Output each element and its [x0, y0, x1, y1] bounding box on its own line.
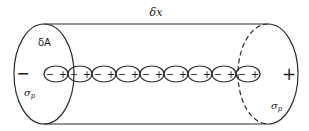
dipole-negative: − — [94, 69, 102, 80]
sigma-subscript: p — [278, 105, 283, 113]
dipole-positive: + — [179, 69, 187, 80]
dipole-negative: − — [190, 69, 198, 80]
right-surface-charge-label: σp — [271, 100, 283, 113]
dipole: − + — [236, 66, 260, 82]
dipole-negative: − — [46, 69, 54, 80]
dipole: − + — [140, 66, 164, 82]
dipole-negative: − — [142, 69, 150, 80]
dipole: − + — [44, 66, 68, 82]
dipole-positive: + — [203, 69, 211, 80]
dipole-negative: − — [214, 69, 222, 80]
dipole: − + — [188, 66, 212, 82]
left-surface-charge-label: σp — [24, 87, 36, 100]
dipole-chain: − + − + − + − + − + − + − — [44, 66, 260, 82]
dipole: − + — [92, 66, 116, 82]
polarized-cylinder-diagram: δx δA − σp + σp − + − + − + − + — [0, 0, 309, 131]
dipole-positive: + — [227, 69, 235, 80]
left-charge-sign: − — [16, 64, 29, 83]
dipole-positive: + — [59, 69, 67, 80]
sigma-subscript: p — [31, 92, 36, 100]
dipole-positive: + — [155, 69, 163, 80]
area-label: δA — [38, 37, 51, 48]
dipole-positive: + — [83, 69, 91, 80]
dipole-negative: − — [166, 69, 174, 80]
dipole-negative: − — [70, 69, 78, 80]
dipole-negative: − — [238, 69, 246, 80]
dipole: − + — [68, 66, 92, 82]
dipole-negative: − — [118, 69, 126, 80]
dipole-positive: + — [107, 69, 115, 80]
dipole: − + — [212, 66, 236, 82]
dipole-positive: + — [251, 69, 259, 80]
dipole: − + — [116, 66, 140, 82]
length-label: δx — [150, 6, 164, 19]
dipole-positive: + — [131, 69, 139, 80]
dipole: − + — [164, 66, 188, 82]
right-charge-sign: + — [282, 64, 296, 84]
